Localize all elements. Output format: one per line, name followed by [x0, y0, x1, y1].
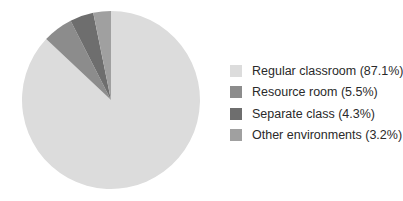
- legend-item-regular-classroom: Regular classroom (87.1%): [230, 60, 403, 82]
- legend-swatch: [230, 108, 242, 120]
- legend-item-other-environments: Other environments (3.2%): [230, 125, 403, 147]
- legend-label: Regular classroom (87.1%): [252, 64, 403, 78]
- pie-chart: [0, 0, 230, 201]
- legend-swatch: [230, 86, 242, 98]
- legend-swatch: [230, 65, 242, 77]
- legend-item-separate-class: Separate class (4.3%): [230, 103, 403, 125]
- legend-label: Other environments (3.2%): [252, 128, 402, 142]
- legend-label: Resource room (5.5%): [252, 85, 378, 99]
- legend-label: Separate class (4.3%): [252, 107, 375, 121]
- legend-swatch: [230, 129, 242, 141]
- legend-item-resource-room: Resource room (5.5%): [230, 82, 403, 104]
- legend: Regular classroom (87.1%) Resource room …: [230, 60, 403, 146]
